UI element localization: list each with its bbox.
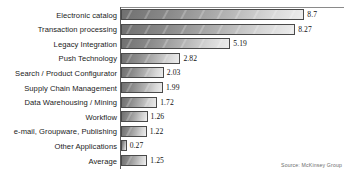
bar-row: Workflow1.26 (0, 110, 346, 124)
bar (121, 24, 295, 35)
bar-row: Search / Product Configurator2.03 (0, 66, 346, 80)
plot-area: Electronic catalog8.7Transaction process… (0, 0, 346, 175)
bar (121, 67, 164, 78)
bar-row: Data Warehousing / Mining1.72 (0, 96, 346, 110)
bar-row: e-mail, Groupware, Publishing1.22 (0, 125, 346, 139)
category-label: Other Applications (0, 142, 117, 151)
bar-value-label: 1.26 (151, 112, 165, 121)
bar (121, 53, 180, 64)
bar (121, 38, 230, 49)
bar-value-label: 1.25 (150, 156, 164, 165)
bar-value-label: 1.99 (166, 83, 180, 92)
category-label: Push Technology (0, 54, 117, 63)
category-label: Supply Chain Management (0, 84, 117, 93)
bar-value-label: 8.7 (307, 10, 317, 19)
bar (121, 82, 163, 93)
category-label: Transaction processing (0, 25, 117, 34)
category-label: Electronic catalog (0, 11, 117, 20)
bar-value-label: 8.27 (298, 25, 312, 34)
bar-row: Electronic catalog8.7 (0, 8, 346, 22)
category-label: Search / Product Configurator (0, 69, 117, 78)
bar (121, 140, 127, 151)
bar-value-label: 1.22 (150, 127, 164, 136)
bar-value-label: 2.03 (167, 68, 181, 77)
bar-value-label: 0.27 (130, 141, 144, 150)
bar-row: Push Technology2.82 (0, 52, 346, 66)
bar-row: Transaction processing8.27 (0, 23, 346, 37)
bar-value-label: 1.72 (160, 98, 174, 107)
category-label: Data Warehousing / Mining (0, 98, 117, 107)
bar (121, 126, 147, 137)
category-label: Average (0, 157, 117, 166)
bar-row: Other Applications0.27 (0, 139, 346, 153)
category-label: Legacy Integration (0, 40, 117, 49)
source-attribution: Source: McKinsey Group (281, 162, 342, 169)
bar (121, 155, 147, 166)
bar-chart: Electronic catalog8.7Transaction process… (0, 0, 346, 175)
bar (121, 97, 157, 108)
bar-value-label: 5.19 (233, 39, 247, 48)
category-label: e-mail, Groupware, Publishing (0, 127, 117, 136)
bar-row: Legacy Integration5.19 (0, 37, 346, 51)
category-label: Workflow (0, 113, 117, 122)
bar (121, 9, 304, 20)
bar (121, 111, 148, 122)
bar-value-label: 2.82 (183, 54, 197, 63)
bar-row: Supply Chain Management1.99 (0, 81, 346, 95)
